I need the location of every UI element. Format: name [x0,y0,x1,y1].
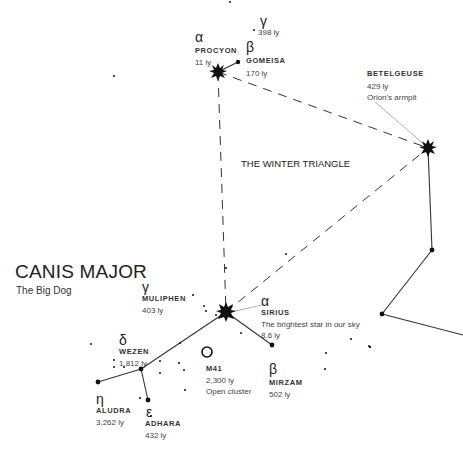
sirius-note: The brightest star in our sky [261,319,360,330]
betelgeuse-star-icon [419,139,437,157]
mirzam-star-icon [270,343,275,348]
m41-name: M41 [206,364,222,374]
orion-star-icon [430,248,435,253]
aludra-greek: η [96,392,104,406]
m41-cluster-icon [202,347,212,357]
gamma-cmi-greek: γ [260,14,267,28]
sirius-distance: 8.6 ly [261,330,280,341]
mirzam-name: MIRZAM [269,378,303,388]
wezen-distance: 1,812 ly [119,358,147,369]
gomeisa-name: GOMEISA [246,56,286,66]
gomeisa-greek: β [246,40,254,54]
constellation-lines [98,62,463,400]
betelgeuse-name: BETELGEUSE [367,69,424,79]
muliphen-greek: γ [142,280,149,294]
mirzam-greek: β [269,362,277,376]
aludra-name: ALUDRA [96,406,131,416]
adhara-name: ADHARA [145,419,181,429]
constellation-title: CANIS MAJOR [15,262,147,282]
adhara-greek: ε [146,405,152,419]
aludra-star-icon [96,380,101,385]
mirzam-distance: 502 ly [269,389,290,400]
gamma-cmi-distance: 398 ly [258,27,279,38]
procyon-greek: α [195,30,203,44]
adhara-distance: 432 ly [145,430,166,441]
sirius-name: SIRIUS [261,308,290,318]
m41-distance: 2,300 ly [206,375,234,386]
adhara-star-icon [146,398,151,403]
wezen-greek: δ [119,333,127,347]
sirius-star-icon [216,302,236,322]
winter-triangle-label: THE WINTER TRIANGLE [241,158,350,169]
gomeisa-distance: 170 ly [246,68,267,79]
aludra-distance: 3,262 ly [96,417,124,428]
procyon-distance: 11 ly [195,57,211,68]
orion-star-icon [380,312,385,317]
constellation-subtitle: The Big Dog [16,285,72,297]
betelgeuse-distance: 429 ly [367,81,388,92]
gomeisa-star-icon [236,60,240,64]
muliphen-name: MULIPHEN [142,294,186,304]
betelgeuse-note: Orion's armpit [367,92,417,103]
sirius-greek: α [261,294,269,308]
muliphen-distance: 403 ly [142,305,163,316]
wezen-name: WEZEN [119,347,149,357]
procyon-star-icon [209,63,227,81]
procyon-name: PROCYON [195,46,237,56]
m41-note: Open cluster [206,386,251,397]
winter-triangle-lines [218,72,428,312]
leader-lines [231,102,426,312]
